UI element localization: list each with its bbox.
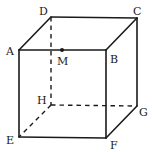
cube-diagram: D C A B M H G E F — [0, 0, 152, 152]
label-C: C — [133, 5, 141, 18]
label-F: F — [110, 139, 118, 152]
point-M-dot — [60, 48, 64, 52]
label-G: G — [139, 106, 148, 119]
label-A: A — [5, 45, 15, 58]
label-E: E — [6, 134, 14, 147]
label-B: B — [110, 53, 118, 66]
edge-EF — [19, 137, 106, 138]
label-M: M — [57, 55, 68, 68]
edge-HG-hidden — [51, 105, 137, 106]
edge-BC — [106, 18, 137, 50]
label-H: H — [37, 94, 47, 107]
edge-DA — [19, 17, 51, 50]
edge-FG — [106, 106, 137, 138]
label-D: D — [39, 5, 48, 18]
edge-CD — [51, 17, 137, 18]
edge-HE-hidden — [19, 105, 51, 137]
